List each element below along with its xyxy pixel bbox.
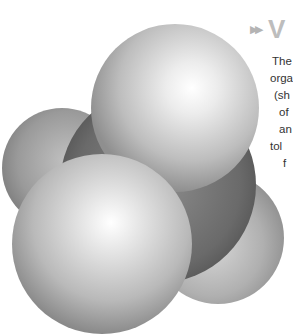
body-line: tol	[270, 140, 282, 152]
body-line: orga	[270, 72, 293, 84]
methane-molecule-illustration	[0, 0, 293, 335]
body-line: of	[279, 106, 289, 118]
section-heading: ▶▶ V	[250, 16, 285, 42]
body-line: f	[283, 157, 286, 169]
hydrogen-atom-front-left	[12, 154, 192, 334]
body-line: an	[279, 123, 292, 135]
body-line: (sh	[274, 89, 290, 101]
body-line: The	[272, 55, 292, 67]
double-arrow-icon: ▶▶	[250, 23, 260, 36]
page: ▶▶ V The orga (sh of an tol f	[0, 0, 293, 335]
section-title: V	[268, 16, 285, 42]
